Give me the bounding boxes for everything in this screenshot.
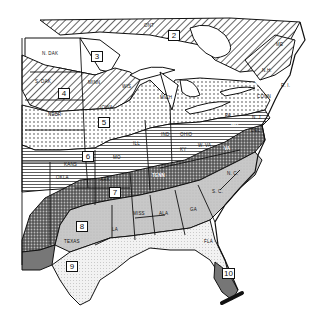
zone-label-3: 3 [91, 51, 103, 62]
state-label-wis: WIS [122, 84, 131, 89]
state-label-la: LA [112, 227, 118, 232]
state-label-sc: S. C. [212, 189, 223, 194]
zone-label-7: 7 [109, 187, 121, 198]
zone-label-6: 6 [82, 151, 94, 162]
state-label-me: ME [276, 42, 283, 47]
state-label-ndak: N. DAK [42, 51, 58, 56]
zone-label-9: 9 [66, 261, 78, 272]
state-label-nc: N. C. [227, 171, 238, 176]
state-label-nh: N.H. [262, 68, 272, 73]
state-label-ont: ONT [144, 23, 154, 28]
state-label-pa: PA [225, 113, 231, 118]
state-label-conn: CONN [257, 94, 271, 99]
state-label-tenn: TENN [152, 173, 165, 178]
state-label-miss: MISS [133, 211, 145, 216]
state-label-sdak: S. DAK [35, 79, 51, 84]
zone-label-2: 2 [168, 30, 180, 41]
state-label-iowa: IOWA [100, 105, 113, 110]
zone-label-4: 4 [58, 88, 70, 99]
state-label-nebr: NEBR [48, 112, 61, 117]
state-label-okla: OKLA [56, 175, 69, 180]
state-label-ky: KY [180, 147, 186, 152]
state-label-ill: ILL [133, 141, 140, 146]
state-label-nj: N. J. [252, 115, 262, 120]
state-label-ri: R. I. [281, 83, 290, 88]
state-label-md: MD [231, 123, 238, 128]
zone-label-5: 5 [98, 117, 110, 128]
zone-label-8: 8 [76, 221, 88, 232]
state-label-minn: MINN [88, 80, 100, 85]
state-label-ind: IND [161, 132, 169, 137]
state-label-mo: MO [113, 155, 121, 160]
state-label-ala: ALA [159, 211, 168, 216]
state-label-va: VA [224, 146, 230, 151]
state-label-del: DEL [251, 128, 260, 133]
state-label-ohio: OHIO [180, 132, 192, 137]
state-label-fla: FLA [204, 239, 213, 244]
state-label-kans: KANS [64, 162, 77, 167]
state-label-ark: ARK [100, 177, 110, 182]
state-label-ga: GA [190, 207, 197, 212]
state-label-mass: MASS [255, 81, 269, 86]
state-label-wva: W. VA [198, 143, 211, 148]
state-label-texas: TEXAS [64, 239, 80, 244]
state-label-mich: MICH [160, 95, 172, 100]
hardiness-zone-map [0, 0, 319, 315]
zone-label-10: 10 [222, 268, 235, 279]
